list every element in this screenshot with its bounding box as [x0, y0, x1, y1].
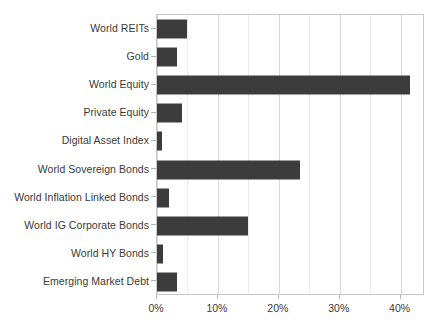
y-axis-label-row: World IG Corporate Bonds [0, 211, 156, 239]
bar-row [157, 71, 423, 99]
bar-row [157, 15, 423, 43]
y-axis-label-row: Emerging Market Debt [0, 267, 156, 295]
plot-area [156, 14, 424, 295]
bar-row [157, 268, 423, 294]
bar-row [157, 184, 423, 212]
y-axis-labels: World REITsGoldWorld EquityPrivate Equit… [0, 14, 156, 295]
bar[interactable] [157, 20, 187, 39]
x-axis-tick-label: 30% [328, 302, 349, 314]
y-axis-label-row: Digital Asset Index [0, 126, 156, 154]
y-axis-label-row: World HY Bonds [0, 239, 156, 267]
x-axis-tick-mark [400, 295, 401, 299]
x-axis-tick-label: 20% [267, 302, 288, 314]
y-axis-label-row: World Equity [0, 70, 156, 98]
bar-row [157, 99, 423, 127]
bar[interactable] [157, 188, 169, 207]
bar[interactable] [157, 160, 300, 179]
x-axis-tick-label: 10% [206, 302, 227, 314]
x-axis: 0%10%20%30%40% [156, 295, 424, 324]
bar-row [157, 127, 423, 155]
y-axis-label: Gold [127, 50, 151, 62]
bar[interactable] [157, 132, 162, 151]
bar[interactable] [157, 104, 182, 123]
y-axis-label: World Inflation Linked Bonds [14, 191, 151, 203]
bar-row [157, 212, 423, 240]
bar[interactable] [157, 76, 410, 95]
bar-row [157, 240, 423, 268]
y-axis-label-row: World Sovereign Bonds [0, 155, 156, 183]
x-axis-tick-mark [217, 295, 218, 299]
y-axis-label: World Sovereign Bonds [38, 163, 151, 175]
bar-chart: World REITsGoldWorld EquityPrivate Equit… [0, 0, 440, 324]
y-axis-label: Private Equity [84, 106, 151, 118]
y-axis-label: Digital Asset Index [62, 134, 151, 146]
bar[interactable] [157, 48, 177, 67]
x-axis-tick-mark [278, 295, 279, 299]
y-axis-label: World Equity [89, 78, 151, 90]
y-axis-label: World IG Corporate Bonds [24, 219, 151, 231]
bar[interactable] [157, 244, 163, 263]
bar-row [157, 43, 423, 71]
y-axis-label: Emerging Market Debt [43, 275, 151, 287]
bar-row [157, 156, 423, 184]
x-axis-tick-mark [156, 295, 157, 299]
bar[interactable] [157, 216, 248, 235]
y-axis-label-row: World Inflation Linked Bonds [0, 183, 156, 211]
x-axis-tick-label: 40% [389, 302, 410, 314]
x-axis-tick-label: 0% [148, 302, 163, 314]
bars [157, 15, 423, 294]
x-axis-tick-mark [339, 295, 340, 299]
y-axis-label: World REITs [90, 22, 151, 34]
y-axis-label: World HY Bonds [71, 247, 151, 259]
y-axis-label-row: Gold [0, 42, 156, 70]
bar[interactable] [157, 272, 177, 291]
y-axis-label-row: World REITs [0, 14, 156, 42]
y-axis-label-row: Private Equity [0, 98, 156, 126]
